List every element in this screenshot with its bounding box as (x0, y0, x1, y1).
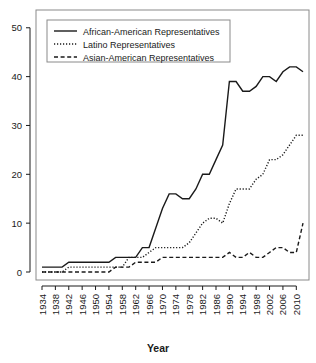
y-tick-label: 40 (11, 71, 22, 82)
y-axis-tick-group: 01020304050 (11, 22, 30, 277)
y-tick-label: 10 (11, 218, 22, 229)
legend-label-2: Asian-American Representatives (83, 53, 215, 63)
x-tick-label: 1938 (50, 294, 61, 315)
data-series-group (42, 67, 303, 272)
legend-label-1: Latino Representatives (83, 40, 176, 50)
y-tick-label: 30 (11, 120, 22, 131)
series-line-1 (42, 135, 303, 272)
x-tick-label: 1958 (117, 294, 128, 315)
x-tick-label: 1994 (237, 294, 248, 315)
x-tick-label: 1974 (170, 294, 181, 315)
x-tick-label: 1962 (130, 294, 141, 315)
chart-legend: African-American RepresentativesLatino R… (47, 20, 230, 63)
x-tick-label: 1986 (211, 294, 222, 315)
x-tick-label: 1966 (144, 294, 155, 315)
x-tick-label: 1954 (103, 294, 114, 315)
y-tick-label: 0 (17, 267, 22, 278)
chart-figure: 01020304050 1934193819421946195019541958… (0, 0, 316, 363)
y-tick-label: 20 (11, 169, 22, 180)
x-tick-label: 1978 (184, 294, 195, 315)
x-axis-title: Year (147, 342, 169, 354)
x-tick-label: 1934 (37, 294, 48, 315)
x-tick-label: 1990 (224, 294, 235, 315)
x-axis-tick-group: 1934193819421946195019541958196219661970… (37, 286, 302, 315)
x-tick-label: 1970 (157, 294, 168, 315)
x-tick-label: 1946 (77, 294, 88, 315)
line-chart: 01020304050 1934193819421946195019541958… (0, 0, 316, 363)
x-tick-label: 1982 (197, 294, 208, 315)
x-tick-label: 2002 (264, 294, 275, 315)
y-tick-label: 50 (11, 22, 22, 33)
x-tick-label: 2010 (291, 294, 302, 315)
legend-label-0: African-American Representatives (83, 27, 220, 37)
series-line-0 (42, 67, 303, 267)
series-line-2 (42, 223, 303, 272)
x-tick-label: 2006 (277, 294, 288, 315)
x-tick-label: 1998 (251, 294, 262, 315)
x-tick-label: 1942 (63, 294, 74, 315)
x-tick-label: 1950 (90, 294, 101, 315)
